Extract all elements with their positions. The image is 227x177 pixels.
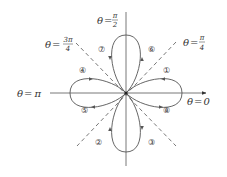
order-label-5: ⑤ [81,106,88,115]
arrow-icon [89,77,93,81]
svg-text:π: π [199,34,205,42]
label-theta-pi-4: θ= π 4 [183,34,205,52]
order-label-4: ④ [79,66,86,75]
svg-text:4: 4 [65,45,70,53]
polar-rose-diagram: θ= π 2 θ= 3π 4 θ= π 4 θ=π θ=0 ① ② ③ ④ ⑤ … [0,0,227,177]
svg-text:θ=: θ= [45,39,60,50]
svg-text:θ=: θ= [183,37,198,48]
order-label-3: ③ [148,138,155,147]
svg-text:3π: 3π [63,36,72,44]
svg-text:θ=π: θ=π [17,88,41,99]
svg-text:θ=: θ= [97,15,112,26]
svg-text:π: π [112,12,118,20]
order-label-2: ② [95,138,102,147]
label-theta-0: θ=0 [187,96,210,107]
arrow-icon [91,105,95,109]
order-label-8: ⑧ [163,106,170,115]
origin-point [124,91,127,94]
order-label-1: ① [163,66,170,75]
arrow-icon [161,77,165,81]
svg-text:2: 2 [112,21,118,29]
order-label-6: ⑥ [148,45,155,54]
svg-text:θ=0: θ=0 [187,96,210,107]
label-theta-pi: θ=π [17,88,41,99]
order-label-7: ⑦ [98,45,105,54]
label-theta-pi-2: θ= π 2 [97,12,118,29]
svg-text:4: 4 [199,44,204,52]
label-theta-3pi-4: θ= 3π 4 [45,36,73,53]
